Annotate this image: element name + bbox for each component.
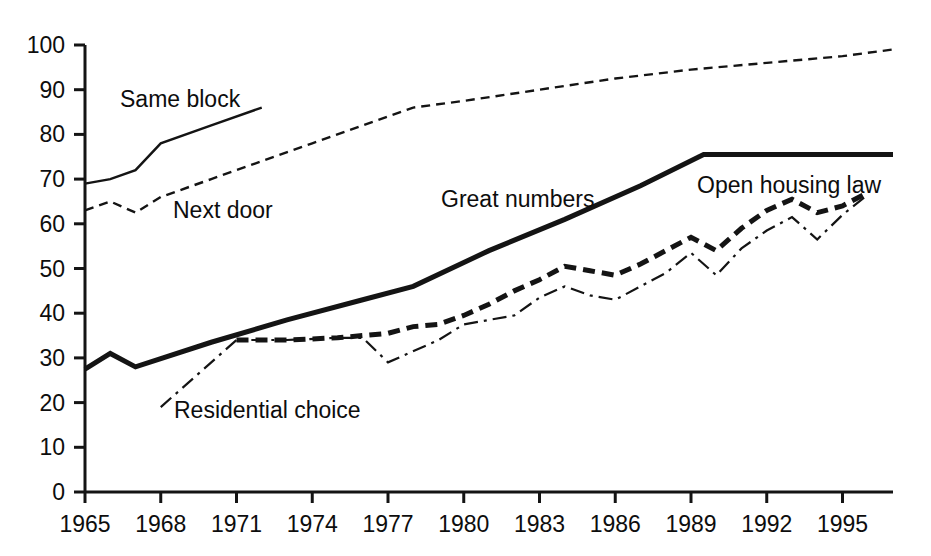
- series-annotations: Same blockNext doorGreat numbersOpen hou…: [120, 86, 882, 423]
- series-annotation-2: Great numbers: [441, 186, 594, 212]
- x-tick-label-1974: 1974: [287, 511, 338, 537]
- series-line-4: [161, 195, 868, 407]
- x-tick-label-1995: 1995: [817, 511, 868, 537]
- y-tick-label-10: 10: [39, 434, 65, 460]
- series-line-0: [85, 108, 262, 184]
- y-tick-label-0: 0: [52, 479, 65, 505]
- axes: [74, 45, 893, 503]
- chart-container: 0102030405060708090100 19651968197119741…: [0, 0, 931, 556]
- series-line-3: [237, 193, 868, 341]
- x-tick-label-1968: 1968: [135, 511, 186, 537]
- y-tick-label-60: 60: [39, 211, 65, 237]
- x-tick-label-1983: 1983: [514, 511, 565, 537]
- y-tick-label-80: 80: [39, 121, 65, 147]
- x-tick-label-1992: 1992: [741, 511, 792, 537]
- y-tick-label-40: 40: [39, 300, 65, 326]
- y-tick-label-20: 20: [39, 390, 65, 416]
- y-axis-tick-labels: 0102030405060708090100: [27, 32, 65, 505]
- series-annotation-1: Next door: [173, 197, 273, 223]
- y-tick-label-90: 90: [39, 77, 65, 103]
- series-annotation-3: Open housing law: [697, 172, 882, 198]
- y-axis-ticks: [74, 45, 85, 492]
- x-tick-label-1977: 1977: [362, 511, 413, 537]
- y-tick-label-30: 30: [39, 345, 65, 371]
- x-tick-label-1980: 1980: [438, 511, 489, 537]
- series-annotation-4: Residential choice: [174, 397, 361, 423]
- x-axis-tick-labels: 1965196819711974197719801983198619891992…: [59, 511, 868, 537]
- y-tick-label-100: 100: [27, 32, 65, 58]
- x-tick-label-1989: 1989: [665, 511, 716, 537]
- series-annotation-0: Same block: [120, 86, 241, 112]
- x-axis-ticks: [85, 492, 843, 503]
- line-chart: 0102030405060708090100 19651968197119741…: [0, 0, 931, 556]
- y-tick-label-50: 50: [39, 256, 65, 282]
- x-tick-label-1965: 1965: [59, 511, 110, 537]
- x-tick-label-1986: 1986: [590, 511, 641, 537]
- y-tick-label-70: 70: [39, 166, 65, 192]
- x-tick-label-1971: 1971: [211, 511, 262, 537]
